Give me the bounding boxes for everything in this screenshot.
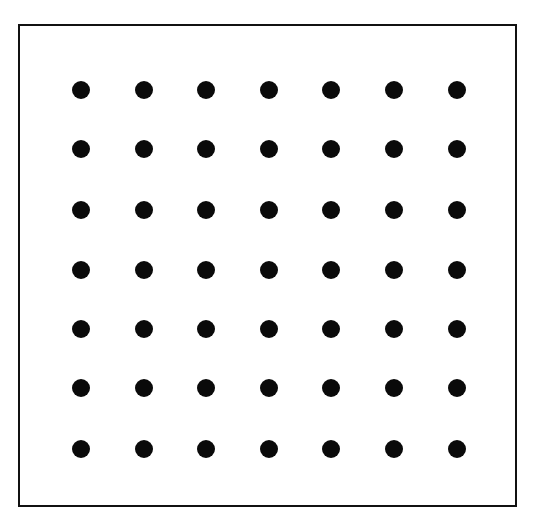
grid-dot-r3-c7: [448, 201, 466, 219]
grid-dot-r4-c4: [260, 261, 278, 279]
grid-dot-r4-c7: [448, 261, 466, 279]
grid-dot-r1-c7: [448, 81, 466, 99]
grid-dot-r5-c6: [385, 320, 403, 338]
grid-dot-r5-c3: [197, 320, 215, 338]
grid-dot-r7-c3: [197, 440, 215, 458]
grid-dot-r2-c2: [135, 140, 153, 158]
grid-dot-r6-c5: [322, 379, 340, 397]
grid-dot-r5-c7: [448, 320, 466, 338]
grid-dot-r7-c4: [260, 440, 278, 458]
grid-dot-r1-c3: [197, 81, 215, 99]
dot-grid: [0, 0, 540, 526]
grid-dot-r3-c4: [260, 201, 278, 219]
grid-dot-r5-c1: [72, 320, 90, 338]
grid-dot-r3-c3: [197, 201, 215, 219]
grid-dot-r4-c1: [72, 261, 90, 279]
grid-dot-r3-c1: [72, 201, 90, 219]
grid-dot-r5-c2: [135, 320, 153, 338]
grid-dot-r3-c6: [385, 201, 403, 219]
grid-dot-r7-c5: [322, 440, 340, 458]
grid-dot-r1-c2: [135, 81, 153, 99]
grid-dot-r2-c6: [385, 140, 403, 158]
grid-dot-r2-c1: [72, 140, 90, 158]
grid-dot-r4-c3: [197, 261, 215, 279]
grid-dot-r7-c2: [135, 440, 153, 458]
grid-dot-r6-c2: [135, 379, 153, 397]
grid-dot-r2-c5: [322, 140, 340, 158]
grid-dot-r3-c5: [322, 201, 340, 219]
grid-dot-r1-c6: [385, 81, 403, 99]
grid-dot-r2-c3: [197, 140, 215, 158]
grid-dot-r7-c7: [448, 440, 466, 458]
grid-dot-r6-c6: [385, 379, 403, 397]
grid-dot-r6-c1: [72, 379, 90, 397]
grid-dot-r1-c5: [322, 81, 340, 99]
grid-dot-r2-c4: [260, 140, 278, 158]
grid-dot-r4-c6: [385, 261, 403, 279]
grid-dot-r6-c3: [197, 379, 215, 397]
grid-dot-r1-c1: [72, 81, 90, 99]
grid-dot-r4-c5: [322, 261, 340, 279]
grid-dot-r5-c4: [260, 320, 278, 338]
grid-dot-r7-c6: [385, 440, 403, 458]
grid-dot-r3-c2: [135, 201, 153, 219]
grid-dot-r5-c5: [322, 320, 340, 338]
grid-dot-r1-c4: [260, 81, 278, 99]
grid-dot-r7-c1: [72, 440, 90, 458]
grid-dot-r2-c7: [448, 140, 466, 158]
grid-dot-r6-c4: [260, 379, 278, 397]
grid-dot-r6-c7: [448, 379, 466, 397]
grid-dot-r4-c2: [135, 261, 153, 279]
